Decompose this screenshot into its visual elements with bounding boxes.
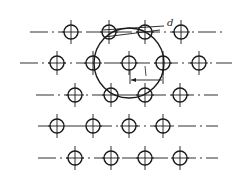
hole-rows [20, 20, 232, 170]
hole-icon [120, 51, 138, 75]
hole-row [20, 51, 232, 75]
hole-icon [62, 20, 80, 44]
hole-icon [84, 51, 102, 75]
arrow-head-icon [131, 78, 136, 82]
hole-icon [48, 51, 66, 75]
diameter-label: d [167, 17, 173, 28]
hole-row [30, 20, 222, 44]
hole-row [36, 83, 218, 107]
hole-pattern-diagram: d L [0, 0, 248, 183]
hole-icon [84, 114, 102, 138]
hole-icon [102, 146, 120, 170]
hole-icon [171, 146, 189, 170]
hole-icon [190, 51, 208, 75]
hole-icon [136, 83, 154, 107]
hole-row [38, 114, 218, 138]
hole-row [38, 146, 218, 170]
hole-icon [136, 146, 154, 170]
hole-icon [120, 114, 138, 138]
hole-icon [102, 83, 120, 107]
hole-icon [66, 83, 84, 107]
hole-icon [66, 146, 84, 170]
hole-icon [48, 114, 66, 138]
hole-icon [154, 114, 172, 138]
hole-icon [171, 83, 189, 107]
hole-icon [172, 20, 190, 44]
